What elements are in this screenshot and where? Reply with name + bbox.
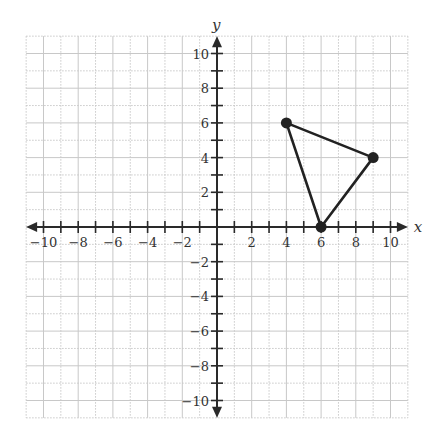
x-tick-label: −4 xyxy=(138,235,157,250)
x-tick-label: 4 xyxy=(282,235,290,250)
y-axis-up-arrow-icon xyxy=(212,36,222,47)
vertex-point xyxy=(281,117,292,128)
y-tick-label: 4 xyxy=(201,151,209,166)
y-tick-label: −10 xyxy=(182,394,209,409)
vertex-point xyxy=(316,222,327,233)
x-tick-label: 10 xyxy=(382,235,399,250)
x-tick-label: −2 xyxy=(173,235,192,250)
y-tick-label: 10 xyxy=(192,47,209,62)
x-tick-label: −10 xyxy=(30,235,57,250)
y-axis-label: y xyxy=(211,16,221,34)
x-axis-left-arrow-icon xyxy=(26,222,37,232)
y-tick-label: 8 xyxy=(201,81,209,96)
y-axis-down-arrow-icon xyxy=(212,407,222,418)
y-tick-label: 6 xyxy=(201,116,209,131)
x-tick-label: 8 xyxy=(352,235,360,250)
y-tick-label: −6 xyxy=(190,324,209,339)
x-tick-label: −6 xyxy=(103,235,122,250)
vertex-point xyxy=(368,152,379,163)
x-tick-label: 6 xyxy=(317,235,325,250)
coordinate-plane: −10−8−6−4−2246810108642−2−4−6−8−10 x y xyxy=(0,0,433,434)
x-axis-label: x xyxy=(414,218,423,236)
x-axis-right-arrow-icon xyxy=(397,222,408,232)
y-tick-label: −2 xyxy=(190,255,209,270)
x-tick-label: −8 xyxy=(69,235,88,250)
x-tick-label: 2 xyxy=(248,235,256,250)
y-tick-label: 2 xyxy=(201,185,209,200)
y-tick-label: −8 xyxy=(190,359,209,374)
y-tick-label: −4 xyxy=(190,289,209,304)
axes xyxy=(26,36,408,418)
